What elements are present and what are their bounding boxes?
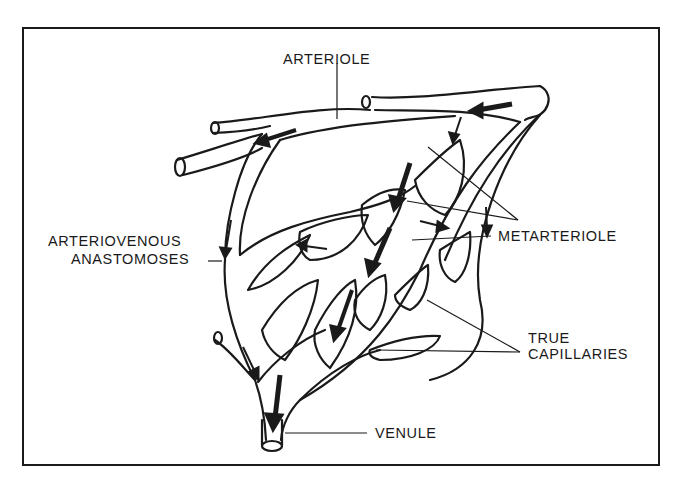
metarteriole-leader <box>412 236 491 240</box>
arteriole-vessel <box>213 109 370 123</box>
true-capillary-loop <box>369 336 440 360</box>
true-capillaries-leader <box>376 350 520 352</box>
venule-opening <box>262 441 282 451</box>
true-capillaries-label-line2: CAPILLARIES <box>528 346 628 363</box>
true-capillaries-label-line1: TRUE <box>528 330 570 347</box>
venule-label: VENULE <box>375 425 437 442</box>
arteriole-label: ARTERIOLE <box>283 51 370 68</box>
metarteriole-label: METARTERIOLE <box>498 228 617 245</box>
av-anastomoses-label-line1: ARTERIOVENOUS <box>48 233 181 250</box>
av-anastomoses-label-line2: ANASTOMOSES <box>71 251 189 268</box>
